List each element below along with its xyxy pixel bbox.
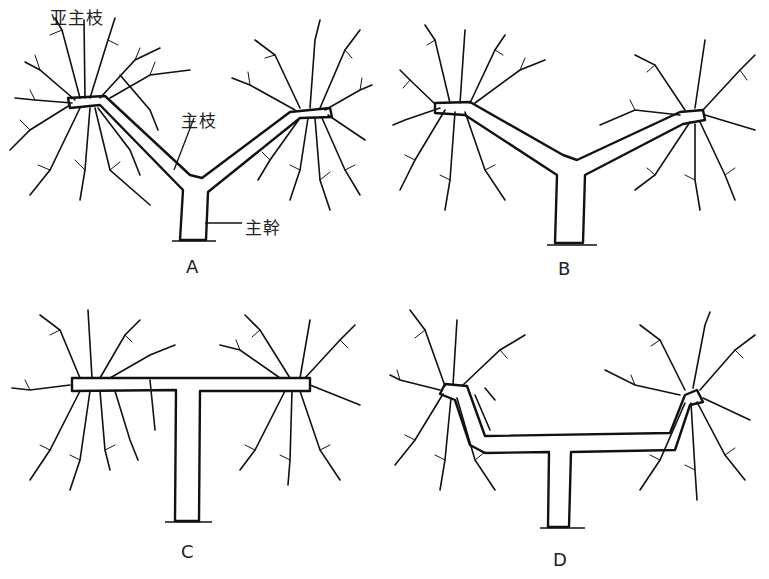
panel-label-b: B <box>558 258 570 279</box>
panel-label-d: D <box>553 549 567 570</box>
tree-d-drawing <box>385 290 769 579</box>
tree-diagram-a: A <box>0 0 385 290</box>
panel-label-c: C <box>181 541 194 562</box>
panel-label-a: A <box>186 256 198 277</box>
tree-c-drawing <box>0 290 385 579</box>
tree-diagram-c: C <box>0 290 385 579</box>
tree-a-drawing <box>0 0 385 290</box>
tree-b-drawing <box>385 0 769 290</box>
tree-diagram-b: B <box>385 0 769 290</box>
tree-diagram-d: D <box>385 290 769 579</box>
